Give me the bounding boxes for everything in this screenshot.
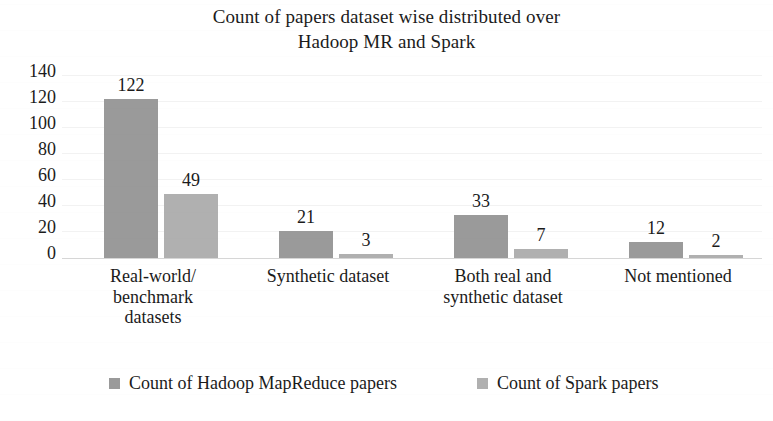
bar-group-synthetic: 21 3 bbox=[243, 70, 413, 258]
legend-label-hadoop: Count of Hadoop MapReduce papers bbox=[129, 373, 397, 393]
x-label-real-world-line-2: benchmark bbox=[68, 287, 238, 308]
y-axis: 140 120 100 80 60 40 20 0 bbox=[0, 62, 56, 272]
x-label-both-line-2: synthetic dataset bbox=[413, 287, 593, 308]
y-tick-20: 20 bbox=[0, 218, 56, 236]
y-tick-140: 140 bbox=[0, 62, 56, 80]
y-tick-80: 80 bbox=[0, 140, 56, 158]
x-axis-labels: Real-world/ benchmark datasets Synthetic… bbox=[62, 266, 762, 346]
legend-item-spark[interactable]: Count of Spark papers bbox=[477, 372, 658, 394]
chart-title-line-1: Count of papers dataset wise distributed… bbox=[0, 4, 773, 29]
x-label-both: Both real and synthetic dataset bbox=[413, 266, 593, 307]
bar-groups: 122 49 21 3 33 7 12 bbox=[62, 70, 762, 262]
bar-hadoop-real-world[interactable] bbox=[104, 99, 158, 258]
x-label-real-world: Real-world/ benchmark datasets bbox=[68, 266, 238, 328]
chart-title-line-2: Hadoop MR and Spark bbox=[0, 29, 773, 54]
chart-title: Count of papers dataset wise distributed… bbox=[0, 4, 773, 54]
legend-item-hadoop[interactable]: Count of Hadoop MapReduce papers bbox=[109, 372, 397, 394]
bar-spark-synthetic[interactable] bbox=[339, 254, 393, 258]
y-tick-100: 100 bbox=[0, 114, 56, 132]
bar-group-not-mentioned: 12 2 bbox=[593, 70, 763, 258]
y-tick-120: 120 bbox=[0, 88, 56, 106]
bar-chart-figure: Count of papers dataset wise distributed… bbox=[0, 0, 773, 421]
y-tick-40: 40 bbox=[0, 192, 56, 210]
bar-group-real-world: 122 49 bbox=[68, 70, 238, 258]
bar-hadoop-not-mentioned[interactable] bbox=[629, 242, 683, 258]
x-label-synthetic: Synthetic dataset bbox=[238, 266, 418, 287]
x-label-real-world-line-3: datasets bbox=[68, 307, 238, 328]
legend-swatch-hadoop-icon bbox=[109, 378, 120, 389]
bar-value-spark-both: 7 bbox=[506, 226, 576, 244]
x-label-synthetic-line-1: Synthetic dataset bbox=[238, 266, 418, 287]
y-tick-0: 0 bbox=[0, 244, 56, 262]
bar-spark-real-world[interactable] bbox=[164, 194, 218, 258]
bar-value-hadoop-real-world: 122 bbox=[96, 76, 166, 94]
y-tick-60: 60 bbox=[0, 166, 56, 184]
x-label-both-line-1: Both real and bbox=[413, 266, 593, 287]
x-label-not-mentioned: Not mentioned bbox=[588, 266, 768, 287]
bar-value-hadoop-both: 33 bbox=[446, 192, 516, 210]
bar-hadoop-both[interactable] bbox=[454, 215, 508, 258]
bar-hadoop-synthetic[interactable] bbox=[279, 231, 333, 258]
legend-label-spark: Count of Spark papers bbox=[497, 373, 658, 393]
bar-value-hadoop-synthetic: 21 bbox=[271, 208, 341, 226]
bar-spark-both[interactable] bbox=[514, 249, 568, 258]
legend-swatch-spark-icon bbox=[477, 378, 488, 389]
bar-spark-not-mentioned[interactable] bbox=[689, 255, 743, 258]
x-label-real-world-line-1: Real-world/ bbox=[68, 266, 238, 287]
x-label-not-mentioned-line-1: Not mentioned bbox=[588, 266, 768, 287]
bar-group-both: 33 7 bbox=[418, 70, 588, 258]
bar-value-spark-real-world: 49 bbox=[156, 171, 226, 189]
bar-value-spark-synthetic: 3 bbox=[331, 231, 401, 249]
bar-value-spark-not-mentioned: 2 bbox=[681, 232, 751, 250]
chart-legend: Count of Hadoop MapReduce papers Count o… bbox=[0, 372, 773, 398]
